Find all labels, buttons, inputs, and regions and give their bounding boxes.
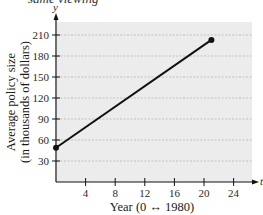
y-axis-title-line2: (in thousands of dollars) (18, 41, 32, 163)
y-tick-label: 30 (38, 155, 50, 167)
line-chart: 306090120150180210 4812162024 y t Year (… (0, 0, 263, 215)
y-axis-title: Average policy size (4, 52, 18, 151)
x-tick-label: 4 (83, 187, 89, 199)
x-axis-title: Year (0 ↔ 1980) (110, 200, 195, 214)
y-tick-label: 90 (38, 113, 50, 125)
x-tick-label: 20 (199, 187, 211, 199)
x-axis-var-label: t (260, 175, 263, 187)
y-tick-label: 210 (33, 29, 50, 41)
x-tick-label: 12 (139, 187, 150, 199)
y-axis-arrow-icon (54, 13, 59, 20)
y-tick-label: 60 (38, 134, 50, 146)
x-axis-arrow-icon (252, 180, 259, 185)
y-tick-label: 120 (33, 92, 50, 104)
x-tick-label: 8 (112, 187, 118, 199)
y-tick-label: 180 (33, 50, 50, 62)
data-point-marker (53, 145, 59, 151)
x-tick-label: 24 (228, 187, 240, 199)
data-point-marker (208, 37, 214, 43)
plot-background (57, 22, 252, 182)
y-tick-label: 150 (33, 71, 50, 83)
x-tick-label: 16 (169, 187, 181, 199)
y-axis-var-label: y (52, 1, 58, 13)
